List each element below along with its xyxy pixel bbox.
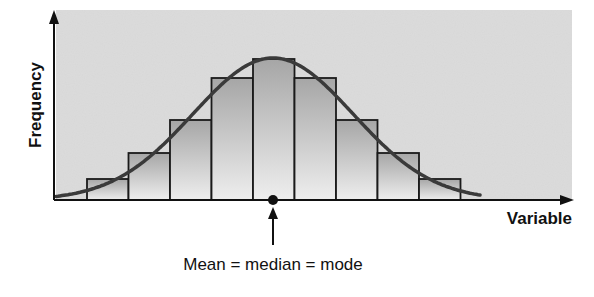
histogram-bar (295, 78, 337, 200)
center-marker-dot (268, 195, 278, 205)
chart-canvas: Frequency Variable Mean = median = mode (0, 0, 594, 297)
annotation-arrow-head-icon (268, 207, 278, 219)
x-axis-label: Variable (507, 209, 572, 228)
histogram-bar (212, 78, 254, 200)
y-axis-label: Frequency (26, 61, 45, 148)
histogram-bar (253, 59, 295, 200)
annotation-label: Mean = median = mode (183, 255, 363, 274)
normal-distribution-chart: Frequency Variable Mean = median = mode (0, 0, 594, 297)
histogram-bar (129, 153, 171, 200)
